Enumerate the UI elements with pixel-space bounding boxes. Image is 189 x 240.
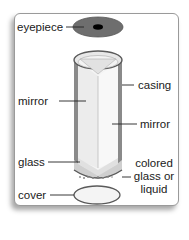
label-eyepiece: eyepiece [17,21,63,33]
label-mirror-left: mirror [18,95,48,107]
label-mirror-right: mirror [140,118,170,130]
casing-part [74,51,122,179]
label-colored-line2: glass or [133,170,175,182]
cover-part [74,186,120,204]
label-cover: cover [18,189,46,201]
label-casing: casing [138,79,171,91]
label-glass: glass [18,156,45,168]
label-colored-line1: colored [133,157,175,169]
label-colored-line3: liquid [133,183,175,195]
